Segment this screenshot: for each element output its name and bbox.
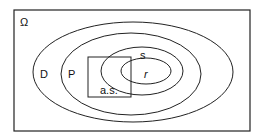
venn-diagram: Ω D P s r a.s. [0, 0, 265, 138]
set-r-label: r [144, 68, 149, 80]
set-D-label: D [40, 68, 48, 80]
as-label: a.s. [100, 84, 118, 96]
set-P-label: P [68, 68, 75, 80]
universe-label: Ω [20, 16, 28, 28]
set-D-ellipse [33, 22, 233, 122]
universe-box [14, 10, 250, 131]
set-s-label: s [140, 49, 146, 61]
